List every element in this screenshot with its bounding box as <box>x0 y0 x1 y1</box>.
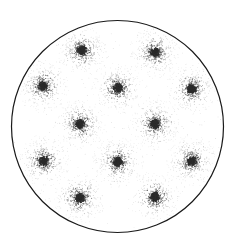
stipple-figure <box>0 0 237 246</box>
aperture-outline-layer <box>0 0 237 246</box>
circular-boundary-icon <box>12 21 224 233</box>
